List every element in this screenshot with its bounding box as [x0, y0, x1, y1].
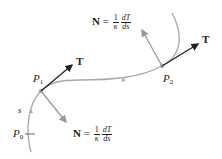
normal-arrow-p2 — [142, 30, 162, 66]
p0-name: P — [13, 127, 20, 139]
normal-symbol: N — [73, 127, 81, 139]
normal-formula-top: N = 1κdTds — [92, 14, 132, 31]
frac-den: κ — [95, 135, 99, 143]
frac-den: ds — [103, 135, 110, 143]
normal-formula-bottom: N = 1κdTds — [73, 126, 113, 143]
normal-symbol: N — [92, 15, 100, 27]
p2-sub: 2 — [170, 78, 174, 86]
equals: = — [103, 15, 109, 27]
tangent-label-p1: T — [76, 56, 83, 67]
arc-length-label: s — [18, 106, 22, 115]
curve-diagram: P1 P0 P2 s T T N = 1κdTds N = 1κdTds — [0, 0, 222, 159]
fraction-one-over-kappa: 1κ — [94, 126, 100, 143]
p1-label: P1 — [33, 73, 43, 86]
p0-sub: 0 — [20, 133, 24, 141]
p2-label: P2 — [163, 73, 173, 86]
curve-direction-arrow — [122, 78, 126, 82]
frac-den: κ — [114, 23, 118, 31]
equals: = — [84, 127, 90, 139]
p2-name: P — [163, 72, 170, 84]
p1-name: P — [33, 72, 40, 84]
normal-arrow-p1 — [41, 91, 66, 122]
fraction-dT-ds: dTds — [102, 126, 112, 143]
p1-sub: 1 — [40, 78, 44, 86]
tangent-arrow-p2 — [162, 44, 198, 66]
fraction-one-over-kappa: 1κ — [113, 14, 119, 31]
p0-label: P0 — [13, 128, 23, 141]
tangent-arrow-p1 — [41, 65, 72, 91]
tangent-label-p2: T — [202, 34, 209, 45]
frac-den: ds — [122, 23, 129, 31]
fraction-dT-ds: dTds — [121, 14, 131, 31]
